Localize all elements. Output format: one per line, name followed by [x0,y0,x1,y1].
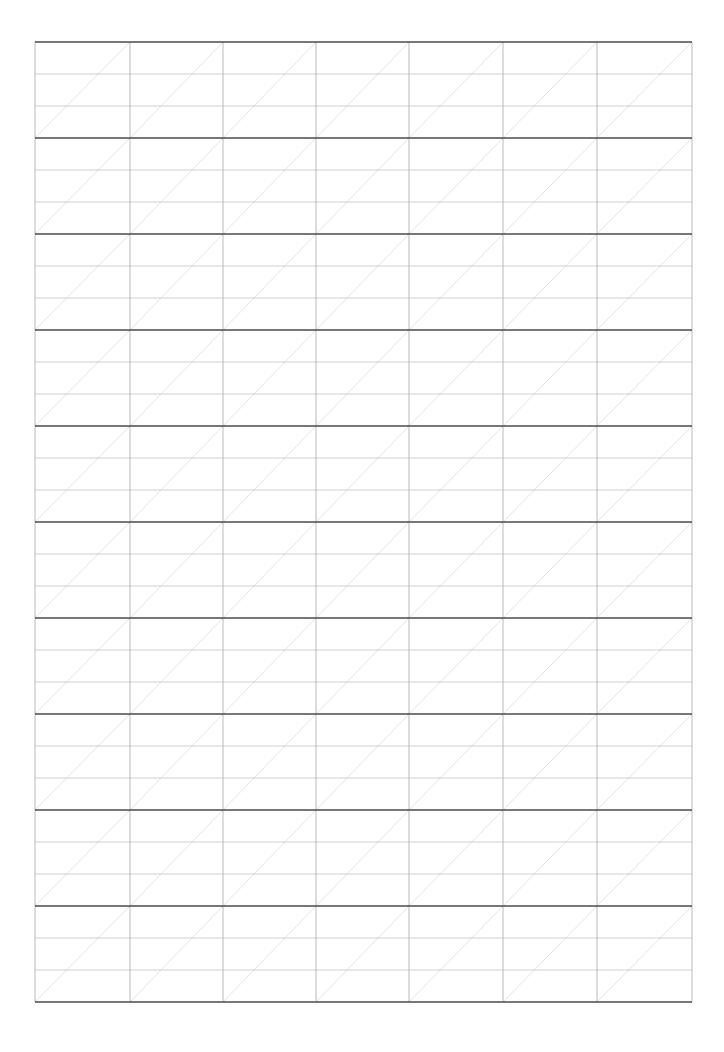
cell-diagonal-guide [409,234,503,330]
cell-diagonal-guide [503,618,597,714]
cell-diagonal-guide [223,810,316,906]
cell-diagonal-guide [35,906,130,1002]
cell-diagonal-guide [35,138,130,234]
cell-diagonal-guide [503,330,597,426]
cell-diagonal-guide [316,330,409,426]
cell-diagonal-guide [409,714,503,810]
cell-diagonal-guide [409,810,503,906]
cell-diagonal-guide [409,330,503,426]
cell-diagonal-guide [597,138,692,234]
cell-diagonal-guide [130,426,223,522]
cell-diagonal-guide [597,522,692,618]
cell-diagonal-guide [503,234,597,330]
cell-diagonal-guide [409,426,503,522]
cell-diagonal-guide [503,138,597,234]
cell-diagonal-guide [597,330,692,426]
cell-diagonal-guide [503,906,597,1002]
cell-diagonal-guide [597,42,692,138]
cell-diagonal-guide [35,714,130,810]
cell-diagonal-guide [409,138,503,234]
cell-diagonal-guide [35,522,130,618]
cell-diagonal-guide [316,234,409,330]
cell-diagonal-guide [316,426,409,522]
cell-diagonal-guide [130,906,223,1002]
cell-diagonal-guide [409,618,503,714]
cell-diagonal-guide [409,906,503,1002]
cell-diagonal-guide [597,714,692,810]
cell-diagonal-guide [223,522,316,618]
cell-diagonal-guide [597,426,692,522]
cell-diagonal-guide [316,810,409,906]
cell-diagonal-guide [316,618,409,714]
cell-diagonal-guide [503,810,597,906]
cell-diagonal-guide [223,42,316,138]
cell-diagonal-guide [223,138,316,234]
cell-diagonal-guide [223,426,316,522]
cell-diagonal-guide [597,618,692,714]
cell-diagonal-guide [35,618,130,714]
cell-diagonal-guide [130,714,223,810]
cell-diagonal-guide [130,234,223,330]
practice-sheet-page [0,0,724,1052]
cell-diagonal-guide [223,618,316,714]
cell-diagonal-guide [223,714,316,810]
cell-diagonal-guide [597,906,692,1002]
cell-diagonal-guide [316,906,409,1002]
cell-diagonal-guide [316,714,409,810]
cell-diagonal-guide [223,906,316,1002]
cell-diagonal-guide [130,810,223,906]
cell-diagonal-guide [130,330,223,426]
cell-diagonal-guide [35,234,130,330]
cell-diagonal-guide [35,426,130,522]
cell-diagonal-guide [130,138,223,234]
cell-diagonal-guide [223,330,316,426]
cell-diagonal-guide [35,330,130,426]
cell-diagonal-guide [35,810,130,906]
cell-diagonal-guide [409,42,503,138]
cell-diagonal-guide [503,426,597,522]
cell-diagonal-guide [316,138,409,234]
cell-diagonal-guide [597,234,692,330]
cell-diagonal-guide [130,42,223,138]
cell-diagonal-guide [409,522,503,618]
cell-diagonal-guide [316,522,409,618]
cell-diagonal-guide [503,42,597,138]
cell-diagonal-guide [503,714,597,810]
cell-diagonal-guide [316,42,409,138]
cell-diagonal-guide [130,618,223,714]
cell-diagonal-guide [223,234,316,330]
cell-diagonal-guide [35,42,130,138]
cell-diagonal-guide [503,522,597,618]
cell-diagonal-guide [597,810,692,906]
cell-diagonal-guide [130,522,223,618]
handwriting-practice-grid [0,0,724,1052]
